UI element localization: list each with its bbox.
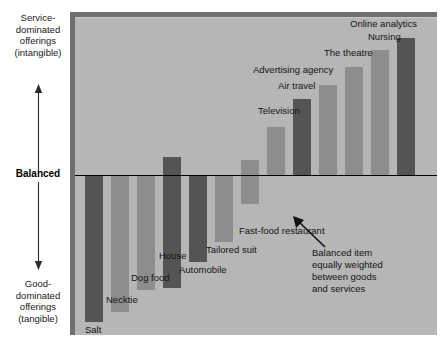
arrow-up-icon	[33, 84, 44, 172]
bar-label-necktie: Necktie	[106, 294, 138, 305]
bar-fast-food-restaurant[interactable]	[241, 160, 259, 204]
bar-label-nursing: Nursing	[368, 31, 401, 42]
bar-label-the-theatre: The theatre	[324, 47, 373, 58]
bar-salt[interactable]	[85, 176, 103, 322]
chart-plot-area: SaltNecktieDog foodHouseAutomobileTailor…	[75, 17, 437, 335]
bar-label-online-analytics: Online analytics	[350, 18, 417, 29]
bar-tailored-suit[interactable]	[215, 176, 233, 242]
bar-label-dog-food: Dog food	[131, 272, 170, 283]
axis-label-good-dominated: Good- dominated offerings (tangible)	[2, 278, 74, 324]
bar-label-television: Television	[258, 105, 300, 116]
bar-label-tailored-suit: Tailored suit	[206, 244, 257, 255]
axis-label-balanced: Balanced	[2, 168, 74, 179]
chart-figure: Service- dominated offerings (intangible…	[0, 0, 446, 350]
bar-television[interactable]	[267, 127, 285, 176]
bar-label-house: House	[159, 250, 186, 261]
balanced-zero-line	[75, 175, 437, 176]
bar-necktie[interactable]	[111, 176, 129, 312]
arrow-down-icon	[33, 182, 44, 270]
callout-arrow-icon	[291, 215, 327, 249]
bar-nursing[interactable]	[371, 50, 389, 176]
axis-label-service-dominated: Service- dominated offerings (intangible…	[2, 12, 74, 58]
bar-label-air-travel: Air travel	[278, 80, 315, 91]
bar-label-salt: Salt	[85, 324, 101, 335]
bar-label-advertising-agency: Advertising agency	[253, 64, 333, 75]
bar-automobile[interactable]	[189, 176, 207, 262]
bar-online-analytics[interactable]	[397, 38, 415, 176]
balanced-item-annotation: Balanced item equally weighted between g…	[312, 247, 383, 295]
bar-advertising-agency[interactable]	[319, 85, 337, 176]
bar-the-theatre[interactable]	[345, 67, 363, 176]
bar-label-automobile: Automobile	[179, 264, 227, 275]
